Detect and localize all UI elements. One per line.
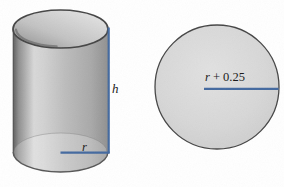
circle-radius-offset-text: + 0.25 [213, 70, 245, 84]
radius-variable-text: r [82, 140, 87, 154]
figure-canvas: h r r+ 0.25 [0, 0, 284, 187]
cylinder-height-label: h [112, 82, 119, 96]
height-variable-text: h [112, 81, 119, 96]
circle-radius-label: r+ 0.25 [205, 71, 245, 85]
cylinder-radius-label: r [82, 141, 87, 155]
circle-radius-variable-text: r [205, 70, 210, 84]
paper-grain-texture [0, 0, 284, 187]
cylinder-and-circle-figure [0, 0, 284, 187]
